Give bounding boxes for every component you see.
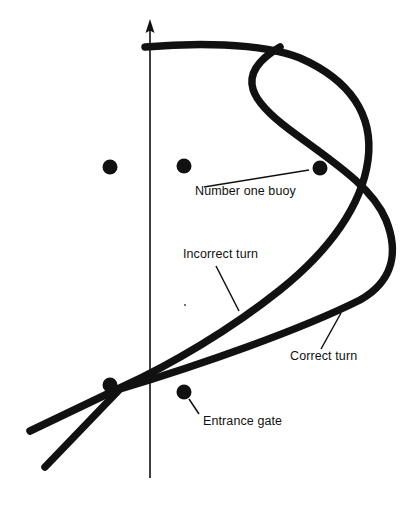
- wind-direction-axis: [146, 19, 155, 478]
- incorrect-turn-leader-line: [216, 266, 239, 311]
- incorrect-turn-track: [30, 44, 369, 431]
- navigation-diagram: Number one buoy Incorrect turn Correct t…: [0, 0, 409, 507]
- buoy-gate-right: [177, 385, 192, 400]
- buoy-upper-middle: [177, 159, 192, 174]
- print-speck: [184, 304, 186, 306]
- buoy-gate-left: [103, 378, 118, 393]
- buoy-number-one: [313, 161, 328, 176]
- diagram-canvas: Number one buoy Incorrect turn Correct t…: [0, 0, 409, 507]
- incorrect-turn-label: Incorrect turn: [183, 247, 258, 261]
- entrance-gate-leader-line: [189, 399, 199, 414]
- buoy-upper-left: [103, 160, 118, 175]
- leader-line-group: [189, 170, 341, 414]
- entrance-gate-label: Entrance gate: [203, 414, 282, 428]
- number-one-buoy-label: Number one buoy: [195, 184, 297, 198]
- correct-turn-label: Correct turn: [290, 349, 357, 363]
